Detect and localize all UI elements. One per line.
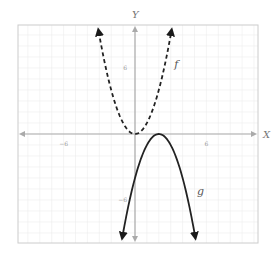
x-axis-label: X <box>262 129 271 140</box>
y-tick-label: 6 <box>123 64 127 71</box>
x-tick-label: −6 <box>59 140 68 147</box>
curve-label-f: f <box>173 58 180 71</box>
y-axis-label: Y <box>132 9 140 20</box>
chart: X Y −66 6−6 fg <box>0 0 275 253</box>
y-tick-label: −6 <box>118 196 127 203</box>
curve-label-g: g <box>197 185 204 198</box>
x-tick-label: 6 <box>204 140 208 147</box>
x-tick-labels: −66 <box>59 140 208 147</box>
